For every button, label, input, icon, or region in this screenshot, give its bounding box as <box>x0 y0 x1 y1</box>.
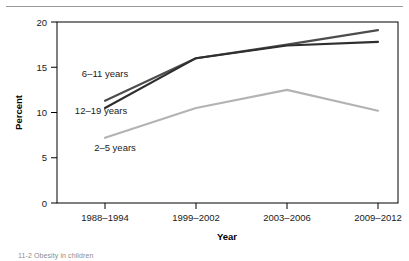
y-tick-label: 5 <box>42 152 47 163</box>
series-label-6-11: 6–11 years <box>82 68 129 79</box>
x-tick-label: 2009–2012 <box>354 212 402 223</box>
x-axis-title: Year <box>217 231 237 242</box>
series-label-2-5: 2–5 years <box>94 142 136 153</box>
x-tick-label: 2003–2006 <box>263 212 311 223</box>
y-tick-label: 15 <box>36 62 47 73</box>
x-tick-labels: 1988–1994 1999–2002 2003–2006 2009–2012 <box>81 212 402 223</box>
y-tick-label: 10 <box>36 107 47 118</box>
x-tick-label: 1999–2002 <box>172 212 220 223</box>
y-tick-label: 0 <box>42 198 47 209</box>
x-tick-label: 1988–1994 <box>81 212 129 223</box>
series-label-12-19: 12–19 years <box>75 105 128 116</box>
line-chart: 20 15 10 5 0 Percent 1988–1994 1999–2002… <box>0 0 409 261</box>
x-axis-ticks <box>105 203 378 209</box>
figure-container: 20 15 10 5 0 Percent 1988–1994 1999–2002… <box>0 0 409 261</box>
y-axis-title: Percent <box>13 94 24 130</box>
y-tick-labels: 20 15 10 5 0 <box>36 17 47 209</box>
y-tick-label: 20 <box>36 17 47 28</box>
figure-caption: 11-2 Obesity in children <box>18 252 398 261</box>
y-axis-ticks <box>51 22 57 203</box>
